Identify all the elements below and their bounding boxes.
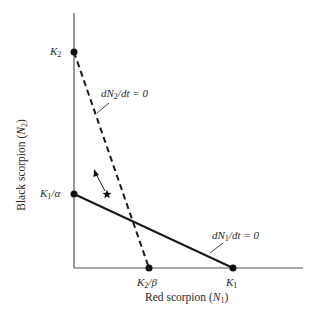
iso1-suffix: /dt = 0: [229, 229, 259, 241]
point-k1-over-alpha: [71, 191, 78, 198]
label-k1a-rest: /α: [51, 187, 60, 199]
x-axis-label-text: Red scorpion (: [145, 291, 213, 303]
point-k2-over-beta: [146, 265, 153, 272]
iso2-suffix: /dt = 0: [118, 87, 148, 99]
leader-line-dn1: [210, 243, 223, 253]
y-axis-label-close: ): [15, 119, 27, 123]
y-axis-label-var: N: [15, 127, 27, 135]
label-k2-sub: 2: [57, 50, 61, 59]
star-icon: [102, 190, 111, 199]
arrowhead-icon: [94, 169, 100, 177]
isocline-dn1-solid: [74, 194, 233, 268]
label-k2-over-beta: K2/β: [137, 277, 157, 288]
y-axis-label-sub: 2: [20, 123, 29, 127]
y-axis-label: Black scorpion (N2): [16, 119, 28, 211]
isocline-dn2-dashed: [74, 52, 149, 268]
iso2-var: N: [107, 87, 114, 99]
label-k2: K2: [50, 46, 61, 57]
label-k1-over-alpha: K1/α: [40, 188, 60, 199]
trajectory-arrow-shaft: [96, 174, 105, 191]
point-k1: [230, 265, 237, 272]
leader-line-dn2: [97, 103, 109, 113]
iso1-var: N: [218, 229, 225, 241]
phase-plane-plot: [0, 0, 321, 316]
x-axis-label-close: ): [224, 291, 228, 303]
label-isocline-dn1: dN1/dt = 0: [212, 230, 259, 241]
label-k2b-rest: /β: [148, 276, 157, 288]
x-axis-label: Red scorpion (N1): [145, 292, 228, 304]
point-k2: [71, 49, 78, 56]
y-axis-label-text: Black scorpion (: [15, 135, 27, 211]
label-k1-sub: 1: [233, 281, 237, 290]
label-isocline-dn2: dN2/dt = 0: [101, 88, 148, 99]
label-k1: K1: [226, 277, 237, 288]
